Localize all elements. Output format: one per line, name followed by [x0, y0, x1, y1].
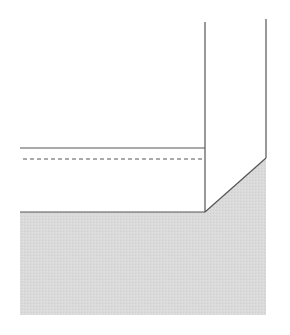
cross-section-diagram	[0, 0, 290, 335]
shaded-ground-region	[20, 158, 266, 315]
